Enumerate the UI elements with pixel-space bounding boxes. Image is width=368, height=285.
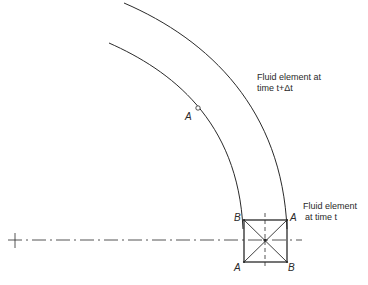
point-label-a-top-right: A: [290, 212, 297, 223]
label-later-line2: time t+Δt: [257, 83, 321, 94]
label-later-line1: Fluid element at: [257, 72, 321, 83]
point-label-b-bottom-right: B: [288, 262, 295, 273]
point-label-b-top-left: B: [234, 212, 241, 223]
point-label-a-bottom-left: A: [234, 262, 241, 273]
label-current-element: Fluid element at time t: [303, 201, 357, 223]
label-current-line1: Fluid element: [303, 201, 357, 212]
point-label-a-arc: A: [185, 111, 192, 122]
box-center-dot: [263, 238, 266, 241]
label-current-line2: at time t: [303, 212, 357, 223]
diagram-canvas: [0, 0, 368, 285]
label-later-element: Fluid element at time t+Δt: [257, 72, 321, 94]
point-a-marker: [196, 106, 200, 110]
